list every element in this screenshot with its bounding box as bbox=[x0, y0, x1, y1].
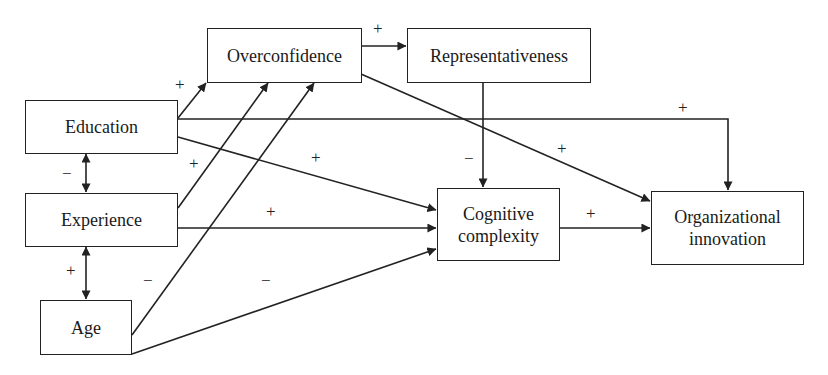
node-overconfidence: Overconfidence bbox=[207, 28, 362, 83]
sign-representativeness-cognitive: − bbox=[464, 150, 474, 167]
node-education: Education bbox=[25, 100, 178, 154]
node-label: Experience bbox=[61, 209, 142, 231]
sign-cognitive-innovation: + bbox=[586, 205, 596, 222]
sign-age-overconfidence: − bbox=[143, 272, 153, 289]
node-representativeness: Representativeness bbox=[407, 28, 591, 83]
node-organizational-innovation: Organizational innovation bbox=[651, 191, 804, 265]
node-label: Overconfidence bbox=[227, 45, 342, 67]
sign-education-innovation: + bbox=[678, 99, 688, 116]
edge-education-cognitive bbox=[178, 137, 436, 210]
node-label-line2: complexity bbox=[458, 225, 539, 247]
sign-education-overconfidence: + bbox=[175, 76, 185, 93]
node-label: Representativeness bbox=[430, 45, 568, 67]
sign-experience-overconfidence: + bbox=[189, 155, 199, 172]
edge-overconfidence-innovation bbox=[361, 74, 650, 201]
sign-overconfidence-innovation: + bbox=[557, 140, 567, 157]
node-cognitive-complexity: Cognitive complexity bbox=[437, 188, 560, 261]
sign-education-cognitive: + bbox=[311, 149, 321, 166]
sign-experience-cognitive: + bbox=[266, 203, 276, 220]
node-label: Age bbox=[71, 317, 101, 339]
edge-education-innovation bbox=[178, 119, 728, 190]
node-label-line1: Cognitive bbox=[463, 203, 534, 225]
sign-overconfidence-representativeness: + bbox=[373, 20, 383, 37]
node-age: Age bbox=[40, 300, 132, 355]
node-label: Education bbox=[65, 116, 138, 138]
sign-experience-age: + bbox=[66, 262, 76, 279]
node-label-line1: Organizational bbox=[674, 206, 781, 228]
edge-age-cognitive bbox=[132, 249, 436, 354]
node-experience: Experience bbox=[25, 193, 178, 247]
sign-age-cognitive: − bbox=[261, 272, 271, 289]
node-label-line2: innovation bbox=[689, 228, 766, 250]
sign-education-experience: − bbox=[62, 165, 72, 182]
